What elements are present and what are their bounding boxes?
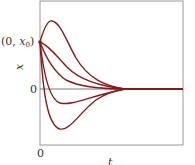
y-tick-zero: 0: [30, 83, 37, 96]
curve-monotone-slow: [40, 42, 183, 89]
x-tick-zero: 0: [37, 147, 44, 160]
plot-frame: [40, 1, 183, 145]
solution-curves: [40, 21, 183, 129]
chart: (0, x0) x 0 0 t: [0, 0, 195, 165]
curve-overshoot-high: [40, 21, 183, 89]
curve-undershoot: [40, 42, 183, 104]
initial-point-label: (0, x0): [1, 35, 34, 49]
y-axis-label: x: [13, 63, 26, 70]
curve-monotone-fast: [40, 42, 183, 89]
x-axis-label: t: [108, 156, 113, 165]
initial-point-marker: [38, 40, 42, 44]
